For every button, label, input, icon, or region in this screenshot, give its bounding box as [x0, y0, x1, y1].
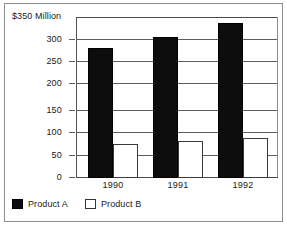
legend-label-product-a: Product A: [28, 199, 68, 209]
bar-product-b-1992: [243, 138, 268, 178]
gridline-350: [76, 17, 278, 18]
filled-square-icon: [12, 199, 23, 209]
ytick-mark-300: [69, 39, 75, 40]
ytick-label-0: 0: [57, 172, 62, 182]
ytick-label-300: 300: [46, 34, 62, 44]
ytick-label-200: 200: [46, 78, 62, 88]
ytick-label-50: 50: [52, 150, 62, 160]
bar-product-b-1990: [113, 144, 138, 178]
ytick-mark-150: [69, 110, 75, 111]
bar-chart-figure: $350 Million 300 250 200 150: [0, 0, 287, 226]
bar-product-a-1991: [153, 37, 178, 178]
xtick-label-1990: 1990: [85, 180, 141, 190]
ytick-mark-0: [69, 177, 75, 178]
legend-item-product-a: Product A: [12, 199, 68, 209]
ytick-mark-250: [69, 61, 75, 62]
xtick-label-1992: 1992: [215, 180, 271, 190]
legend-label-product-b: Product B: [101, 199, 141, 209]
xtick-label-1991: 1991: [150, 180, 206, 190]
ytick-label-250: 250: [46, 56, 62, 66]
ytick-label-100: 100: [46, 127, 62, 137]
bar-product-a-1990: [88, 48, 113, 178]
top-axis-label: $350 Million: [12, 11, 61, 21]
bar-product-b-1991: [178, 141, 203, 178]
ytick-mark-200: [69, 83, 75, 84]
plot-area: $350 Million 300 250 200 150: [0, 0, 287, 226]
hollow-square-icon: [85, 199, 96, 209]
chart-legend: Product A Product B: [12, 199, 141, 209]
plot-right-edge: [277, 17, 278, 178]
ytick-mark-50: [69, 155, 75, 156]
bar-product-a-1992: [218, 23, 243, 178]
legend-item-product-b: Product B: [85, 199, 141, 209]
ytick-mark-100: [69, 132, 75, 133]
ytick-label-150: 150: [46, 105, 62, 115]
y-axis-line: [76, 17, 77, 178]
